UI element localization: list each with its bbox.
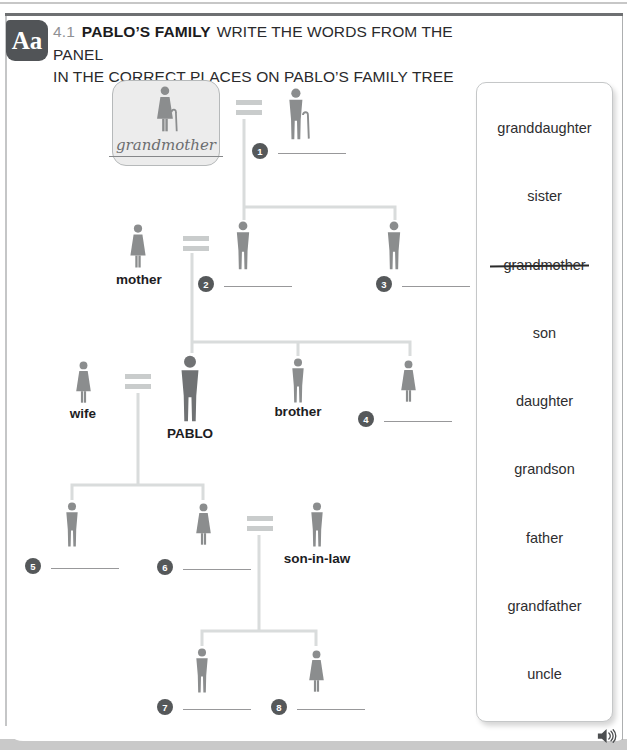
figure-blank-3-man-icon — [381, 221, 407, 272]
answer-blank-3[interactable]: 3 — [376, 276, 470, 292]
exercise-instruction-line2: IN THE CORRECT PLACES ON PABLO’S FAMILY … — [53, 68, 454, 85]
write-line[interactable] — [278, 153, 346, 155]
panel-word: son — [483, 325, 606, 341]
write-line[interactable] — [183, 709, 251, 711]
exercise-number: 4.1 — [53, 23, 75, 40]
answer-blank-7[interactable]: 7 — [157, 699, 251, 715]
blank-number-badge: 6 — [157, 559, 173, 575]
figure-blank-6-woman-icon — [192, 503, 215, 549]
son-in-law-label: son-in-law — [284, 551, 351, 566]
blank-number-badge: 4 — [358, 411, 374, 427]
answer-blank-2[interactable]: 2 — [198, 276, 292, 292]
panel-word: grandfather — [483, 598, 606, 614]
mother-label: mother — [116, 272, 162, 287]
write-line[interactable] — [51, 568, 119, 570]
panel-word: granddaughter — [483, 120, 606, 136]
page-top-edge — [0, 2, 627, 4]
blank-number-badge: 8 — [271, 699, 287, 715]
equals-sign-pablo-wife — [125, 374, 151, 389]
panel-word-text: grandmother — [503, 257, 585, 273]
exercise-title: PABLO’S FAMILY — [82, 23, 211, 40]
write-line[interactable] — [224, 286, 292, 288]
answer-blank-5[interactable]: 5 — [25, 558, 119, 574]
panel-word: father — [483, 530, 606, 546]
answer-blank-6[interactable]: 6 — [157, 559, 251, 575]
grandmother-figure-icon — [153, 86, 179, 136]
write-line[interactable] — [384, 421, 452, 423]
equals-sign-daughter-husband — [247, 516, 273, 531]
brother-label: brother — [274, 404, 321, 419]
figure-blank-2-man-icon — [230, 221, 256, 272]
word-panel: granddaughter sister grandmother son dau… — [476, 82, 613, 722]
figure-blank-1-elderly-man-icon — [283, 88, 311, 142]
grandmother-handwritten-label: grandmother — [109, 136, 223, 157]
page-border-left — [5, 14, 7, 726]
equals-sign-parents — [183, 236, 209, 251]
answer-blank-4[interactable]: 4 — [358, 411, 452, 427]
panel-word-text: daughter — [516, 393, 573, 409]
panel-word: grandson — [483, 461, 606, 477]
blank-number-badge: 5 — [25, 558, 41, 574]
answer-blank-8[interactable]: 8 — [271, 699, 365, 715]
son-in-law-figure-icon — [305, 502, 329, 549]
blank-number-badge: 1 — [252, 143, 268, 159]
panel-word-text: sister — [527, 188, 562, 204]
page-border-right — [622, 14, 624, 740]
blank-number-badge: 2 — [198, 276, 214, 292]
wife-label: wife — [70, 406, 96, 421]
header-rule — [5, 13, 623, 16]
pablo-figure-icon — [172, 355, 208, 425]
wife-figure-icon — [72, 361, 95, 407]
blank-number-badge: 7 — [157, 699, 173, 715]
mother-figure-icon — [126, 224, 150, 272]
worksheet-page: { "page": { "badge_label": "Aa", "exerci… — [0, 0, 627, 750]
equals-sign-grandparents — [236, 100, 262, 115]
figure-blank-4-woman-icon — [397, 360, 420, 406]
panel-word: daughter — [483, 393, 606, 409]
blank-number-badge: 3 — [376, 276, 392, 292]
write-line[interactable] — [402, 286, 470, 288]
panel-word-text: father — [526, 530, 563, 546]
panel-word: sister — [483, 188, 606, 204]
vocabulary-section-badge: Aa — [6, 20, 48, 61]
exercise-header: 4.1PABLO’S FAMILYWRITE THE WORDS FROM TH… — [53, 21, 493, 89]
panel-word-text: granddaughter — [497, 120, 591, 136]
panel-word: uncle — [483, 666, 606, 682]
speaker-icon[interactable] — [597, 727, 618, 745]
answer-blank-1[interactable]: 1 — [252, 143, 346, 159]
figure-blank-5-man-icon — [60, 502, 84, 549]
figure-blank-8-woman-icon — [305, 650, 328, 696]
panel-word: grandmother — [483, 257, 606, 273]
brother-figure-icon — [286, 358, 310, 405]
panel-word-text: son — [533, 325, 556, 341]
write-line[interactable] — [297, 709, 365, 711]
write-line[interactable] — [183, 569, 251, 571]
panel-word-text: grandson — [514, 461, 574, 477]
pablo-label: PABLO — [167, 426, 213, 441]
figure-blank-7-man-icon — [190, 648, 214, 695]
panel-word-text: uncle — [527, 666, 562, 682]
panel-word-text: grandfather — [507, 598, 581, 614]
